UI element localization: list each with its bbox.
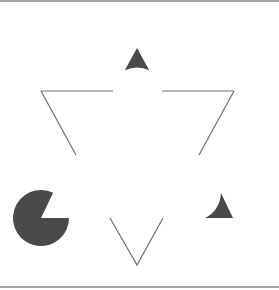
pacman-top <box>125 48 149 70</box>
line-bottom-v <box>110 218 163 265</box>
line-top-right-diagonal <box>199 91 234 155</box>
line-top-left-diagonal <box>41 91 76 155</box>
kanizsa-triangle-canvas <box>0 0 279 290</box>
pacman-bottom-right <box>205 193 233 218</box>
illusion-figure <box>0 0 279 290</box>
pacman-bottom-left <box>13 190 69 246</box>
